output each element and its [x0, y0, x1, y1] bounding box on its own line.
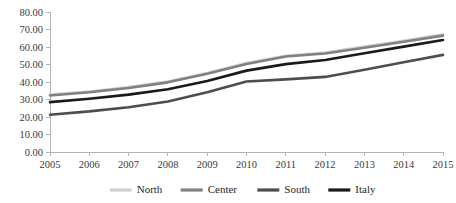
- y-axis-tick-label: 50.00: [19, 59, 43, 70]
- y-axis-tick-label: 60.00: [19, 42, 43, 53]
- x-axis-tick-label: 2007: [118, 159, 139, 170]
- x-axis-tick-label: 2012: [315, 159, 336, 170]
- x-axis-tick-label: 2013: [354, 159, 375, 170]
- legend-label-center: Center: [208, 183, 238, 195]
- y-axis-tick-label: 80.00: [19, 7, 43, 18]
- x-axis-tick-label: 2008: [157, 159, 178, 170]
- y-axis-tick-label: 10.00: [19, 129, 43, 140]
- y-axis-tick-label: 20.00: [19, 112, 43, 123]
- legend-label-south: South: [284, 183, 310, 195]
- y-axis-tick-label: 0.00: [25, 147, 43, 158]
- x-axis-tick-label: 2009: [197, 159, 218, 170]
- y-axis-tick-label: 30.00: [19, 94, 43, 105]
- x-axis-tick-group: [50, 152, 443, 156]
- x-axis-tick-label: 2010: [236, 159, 257, 170]
- x-axis-tick-label: 2005: [40, 159, 61, 170]
- y-axis: 0.0010.0020.0030.0040.0050.0060.0070.008…: [19, 7, 50, 158]
- series-lines-group: [50, 34, 443, 114]
- y-axis-label-group: 0.0010.0020.0030.0040.0050.0060.0070.008…: [19, 7, 43, 158]
- chart-legend: NorthCenterSouthItaly: [110, 183, 376, 195]
- legend-label-italy: Italy: [355, 183, 376, 195]
- x-axis-tick-label: 2014: [393, 159, 415, 170]
- x-axis-tick-label: 2006: [79, 159, 100, 170]
- x-axis-label-group: 2005200620072008200920102011201220132014…: [40, 159, 454, 170]
- y-axis-tick-group: [46, 12, 50, 152]
- legend-label-north: North: [137, 183, 163, 195]
- chart-canvas: 0.0010.0020.0030.0040.0050.0060.0070.008…: [0, 0, 456, 203]
- y-axis-tick-label: 40.00: [19, 77, 43, 88]
- x-axis-tick-label: 2015: [433, 159, 454, 170]
- y-axis-tick-label: 70.00: [19, 24, 43, 35]
- line-chart: 0.0010.0020.0030.0040.0050.0060.0070.008…: [0, 0, 456, 203]
- x-axis: 2005200620072008200920102011201220132014…: [40, 152, 454, 170]
- x-axis-tick-label: 2011: [275, 159, 296, 170]
- series-line-italy: [50, 40, 443, 102]
